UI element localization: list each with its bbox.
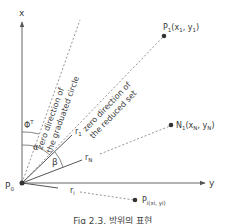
alpha-label: α xyxy=(33,143,38,152)
ray-rN-label: rN xyxy=(85,153,92,163)
reduced-set-label: zero direction of the reduced set xyxy=(81,80,140,140)
phi-label: ΦT xyxy=(24,119,34,130)
figure-caption: Fig 2.3. 방위의 표현 xyxy=(0,214,225,224)
point-p1-label: P1(x1, y1) xyxy=(163,23,199,33)
point-n1-label: N1(xN, yN) xyxy=(176,121,215,131)
point-pi xyxy=(133,198,138,203)
ray-r1-label: r1 xyxy=(75,127,82,137)
ray-ri-label: ri xyxy=(70,186,75,196)
phi-arc xyxy=(22,132,39,134)
x-axis-label: x xyxy=(19,8,25,18)
ray-ri xyxy=(22,183,58,188)
reduced-set-direction xyxy=(22,37,163,183)
ray-ri-dashed xyxy=(80,192,134,200)
origin-label: P0 xyxy=(5,181,14,192)
point-p1 xyxy=(162,34,167,39)
origin-point xyxy=(20,181,25,186)
y-axis-label: y xyxy=(209,178,215,188)
point-pi-label: Pi(xi, yi) xyxy=(142,196,166,207)
graduated-circle-label: zero direction of the graduated circle xyxy=(35,71,81,154)
orientation-diagram: x y zero direction of the graduated circ… xyxy=(0,0,225,224)
ray-rN-dashed xyxy=(100,126,170,154)
point-n1 xyxy=(169,123,174,128)
beta-label: β xyxy=(52,157,58,167)
